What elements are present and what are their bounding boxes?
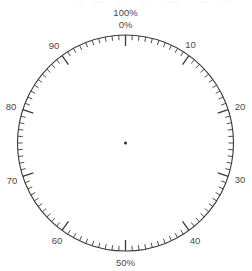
tick-minor	[105, 244, 106, 249]
tick-minor	[157, 40, 159, 45]
dial-center-dot	[124, 142, 127, 145]
tick-minor	[225, 169, 230, 170]
tick-minor	[31, 193, 35, 195]
tick-minor	[73, 48, 75, 52]
tick-minor	[99, 243, 100, 248]
tick-major	[23, 173, 33, 176]
dial-label-70: 70	[7, 175, 18, 186]
tick-minor	[196, 64, 199, 68]
tick-minor	[145, 37, 146, 42]
tick-minor	[25, 103, 30, 105]
tick-minor	[219, 97, 224, 99]
tick-minor	[225, 116, 230, 117]
tick-minor	[68, 230, 71, 234]
dial-label-group: 0%100%1020304050%60708090	[6, 7, 246, 268]
tick-minor	[68, 52, 71, 56]
dial-label-50pct: 50%	[116, 257, 136, 268]
tick-minor	[19, 162, 24, 163]
tick-minor	[28, 187, 33, 189]
tick-minor	[205, 209, 209, 212]
dial-label-30: 30	[235, 174, 246, 185]
tick-minor	[138, 36, 139, 41]
tick-minor	[21, 116, 26, 117]
dial-label-100pct: 100%	[113, 7, 138, 18]
tick-minor	[163, 43, 165, 48]
tick-minor	[151, 38, 152, 43]
tick-minor	[34, 198, 38, 201]
tick-minor	[112, 36, 113, 41]
tick-minor	[216, 91, 220, 93]
tick-minor	[205, 74, 209, 77]
tick-major	[218, 110, 228, 113]
tick-minor	[181, 52, 184, 56]
tick-minor	[169, 45, 171, 50]
tick-minor	[92, 40, 94, 45]
dial-label-60: 60	[52, 235, 63, 246]
tick-minor	[181, 230, 184, 234]
tick-minor	[212, 85, 216, 88]
dial-svg: 0%100%1020304050%60708090	[0, 0, 252, 271]
tick-minor	[175, 233, 177, 237]
tick-minor	[25, 181, 30, 183]
tick-minor	[201, 214, 205, 217]
tick-minor	[219, 187, 224, 189]
tick-minor	[28, 97, 33, 99]
tick-minor	[216, 193, 220, 195]
tick-minor	[42, 209, 46, 212]
tick-minor	[47, 214, 51, 217]
tick-minor	[209, 80, 213, 83]
tick-minor	[86, 239, 88, 244]
tick-minor	[227, 162, 232, 163]
tick-minor	[38, 80, 42, 83]
tick-minor	[19, 123, 24, 124]
tick-minor	[73, 233, 75, 237]
tick-minor	[221, 181, 226, 183]
tick-minor	[228, 129, 233, 130]
tick-minor	[221, 103, 226, 105]
tick-minor	[92, 241, 94, 246]
tick-minor	[227, 123, 232, 124]
tick-minor	[175, 48, 177, 52]
tick-minor	[34, 85, 38, 88]
tick-minor	[145, 244, 146, 249]
dial-label-80: 80	[6, 101, 17, 112]
tick-minor	[57, 222, 60, 226]
tick-minor	[52, 218, 55, 222]
tick-minor	[38, 204, 42, 207]
dial-label-90: 90	[49, 40, 60, 51]
tick-minor	[52, 64, 55, 68]
tick-minor	[169, 236, 171, 241]
tick-major	[183, 221, 189, 230]
tick-minor	[191, 60, 194, 64]
dial-label-20: 20	[235, 101, 246, 112]
tick-minor	[191, 222, 194, 226]
tick-major	[23, 110, 33, 113]
tick-major	[62, 221, 68, 230]
tick-minor	[18, 156, 23, 157]
tick-minor	[57, 60, 60, 64]
tick-minor	[138, 245, 139, 250]
tick-minor	[18, 129, 23, 130]
tick-minor	[47, 69, 51, 72]
tick-minor	[151, 243, 152, 248]
tick-minor	[42, 74, 46, 77]
tick-minor	[105, 37, 106, 42]
tick-major	[218, 173, 228, 176]
tick-minor	[209, 204, 213, 207]
tick-minor	[31, 91, 35, 93]
tick-minor	[196, 218, 199, 222]
tick-minor	[212, 198, 216, 201]
tick-minor	[163, 239, 165, 244]
dial-label-40: 40	[190, 235, 201, 246]
tick-minor	[112, 245, 113, 250]
tick-minor	[201, 69, 205, 72]
tick-minor	[228, 156, 233, 157]
tick-minor	[86, 43, 88, 48]
tick-major	[183, 56, 189, 65]
tick-minor	[80, 236, 82, 241]
tick-minor	[21, 169, 26, 170]
dial-label-0pct: 0%	[119, 19, 133, 30]
dial-diagram: 0%100%1020304050%60708090	[0, 0, 252, 271]
dial-label-10: 10	[185, 39, 196, 50]
tick-minor	[99, 38, 100, 43]
